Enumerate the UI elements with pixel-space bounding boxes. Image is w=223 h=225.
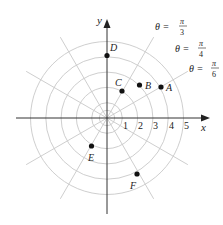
x-axis-label: x [200,121,206,133]
svg-text:3: 3 [180,28,184,37]
angle-label-pi-4: θ = π 4 [175,39,206,59]
grid-radial-line [26,71,107,118]
point-a-label: A [165,82,173,93]
polar-diagram: x y 1 2 3 4 5 θ = π 3 θ = π 4 θ = π 6 [0,0,223,225]
y-axis-label: y [96,14,102,26]
point-f-label: F [129,180,137,191]
svg-text:θ =: θ = [189,63,203,74]
y-axis-arrow-icon [104,19,111,28]
point-e-marker [89,143,94,148]
svg-text:4: 4 [199,50,203,59]
tick-5: 5 [184,120,189,131]
point-c-label: C [115,77,122,88]
point-d-marker [104,53,109,58]
svg-text:π: π [212,59,217,68]
tick-1: 1 [123,120,128,131]
tick-2: 2 [138,120,143,131]
grid-radial-line [60,37,107,118]
grid-radial-line [60,118,107,199]
svg-text:θ =: θ = [155,21,169,32]
point-c-marker [119,88,124,93]
tick-4: 4 [169,120,174,131]
point-b-marker [137,82,142,87]
svg-text:π: π [199,39,204,48]
angle-labels: θ = π 3 θ = π 4 θ = π 6 [155,17,219,79]
point-a-marker [158,84,163,89]
point-f-marker [134,171,139,176]
point-e-label: E [87,152,94,163]
grid-radial-line [107,118,188,165]
svg-text:θ =: θ = [175,43,189,54]
svg-text:π: π [180,17,185,26]
tick-3: 3 [153,120,158,131]
svg-text:6: 6 [212,70,216,79]
grid-radial-line [26,118,107,165]
angle-label-pi-3: θ = π 3 [155,17,187,37]
tick-labels: 1 2 3 4 5 [123,120,189,131]
angle-label-pi-6: θ = π 6 [189,59,219,79]
point-d-label: D [109,42,118,53]
point-b-label: B [145,80,151,91]
